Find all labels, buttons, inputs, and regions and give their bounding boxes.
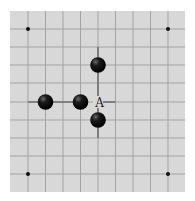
- black-stone-icon: [38, 94, 54, 110]
- go-board-diagram: A: [0, 0, 195, 201]
- black-stone-icon: [73, 94, 89, 110]
- point-label-a: A: [94, 96, 104, 110]
- star-point-icon: [26, 27, 30, 31]
- point-labels: A: [93, 96, 104, 110]
- star-point-icon: [166, 172, 170, 176]
- black-stone-icon: [90, 57, 106, 73]
- star-point-icon: [166, 27, 170, 31]
- black-stone-icon: [90, 112, 106, 128]
- star-point-icon: [26, 172, 30, 176]
